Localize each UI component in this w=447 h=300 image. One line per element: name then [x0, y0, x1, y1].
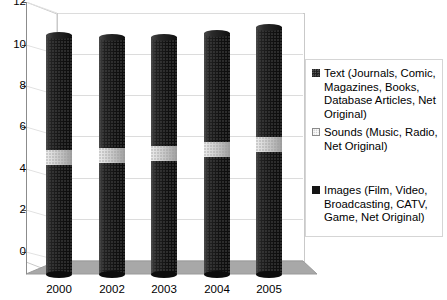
y-tick-label-2: 2: [4, 204, 26, 216]
light-dotted-swatch-icon: [312, 128, 320, 136]
y-tick-label-8: 8: [4, 80, 26, 92]
bar-2003-segment-sounds[interactable]: [151, 146, 177, 161]
bar-2005-bottom-cap: [256, 271, 282, 278]
x-tick-label-2005: 2005: [244, 283, 294, 295]
bar-2005-segment-text[interactable]: [256, 27, 282, 137]
bar-2004-bottom-cap: [204, 271, 230, 278]
bar-2000-segment-text[interactable]: [46, 35, 72, 150]
y-tick-label-10: 10: [4, 39, 26, 51]
dark-dotted-swatch-icon: [312, 69, 320, 77]
y-tick-label-12: 12: [4, 0, 26, 8]
solid-dark-swatch-icon: [312, 186, 320, 194]
x-tick-label-2000: 2000: [34, 283, 84, 295]
bar-2002-segment-sounds[interactable]: [99, 148, 125, 163]
bar-2002-top-cap: [99, 34, 125, 41]
bar-2004-segment-text[interactable]: [204, 33, 230, 142]
y-tick-label-6: 6: [4, 121, 26, 133]
bar-2003-bottom-cap: [151, 271, 177, 278]
gridline-12: [58, 13, 303, 14]
x-tick-label-2002: 2002: [87, 283, 137, 295]
bar-2002-bottom-cap: [99, 271, 125, 278]
legend-entry-sounds[interactable]: Sounds (Music, Radio, Net Original): [312, 126, 440, 153]
bar-2005[interactable]: [256, 27, 282, 274]
bar-2004-top-cap: [204, 30, 230, 37]
bar-2004-segment-sounds[interactable]: [204, 142, 230, 157]
x-tick-label-2004: 2004: [192, 283, 242, 295]
bar-2004[interactable]: [204, 33, 230, 274]
bar-2000-segment-images[interactable]: [46, 165, 72, 274]
legend-label-text: Text (Journals, Comic, Magazines, Books,…: [324, 67, 436, 121]
y-tick-label-4: 4: [4, 163, 26, 175]
bar-2000-segment-sounds[interactable]: [46, 150, 72, 165]
legend-label-sounds: Sounds (Music, Radio, Net Original): [324, 126, 438, 153]
bar-2005-top-cap: [256, 24, 282, 31]
bar-2003-top-cap: [151, 34, 177, 41]
x-tick-label-2003: 2003: [139, 283, 189, 295]
bar-2004-segment-images[interactable]: [204, 157, 230, 274]
y-axis-line: [26, 2, 27, 274]
bar-2002[interactable]: [99, 37, 125, 274]
bar-2000-bottom-cap: [46, 271, 72, 278]
bar-2003[interactable]: [151, 37, 177, 274]
bar-2005-segment-images[interactable]: [256, 152, 282, 274]
legend-entry-images[interactable]: Images (Film, Video, Broadcasting, CATV,…: [312, 184, 440, 225]
bar-2002-segment-text[interactable]: [99, 37, 125, 148]
bar-2000-top-cap: [46, 32, 72, 39]
chart-canvas: 12 10 8 6 4 2 0: [0, 0, 447, 300]
y-tick-label-0: 0: [4, 246, 26, 258]
bar-2003-segment-text[interactable]: [151, 37, 177, 146]
bar-2003-segment-images[interactable]: [151, 161, 177, 274]
bar-2005-segment-sounds[interactable]: [256, 137, 282, 152]
legend-label-images: Images (Film, Video, Broadcasting, CATV,…: [324, 184, 428, 225]
bar-2002-segment-images[interactable]: [99, 163, 125, 274]
legend-entry-text[interactable]: Text (Journals, Comic, Magazines, Books,…: [312, 67, 440, 121]
chart-legend: Text (Journals, Comic, Magazines, Books,…: [305, 59, 443, 237]
bar-2000[interactable]: [46, 35, 72, 274]
